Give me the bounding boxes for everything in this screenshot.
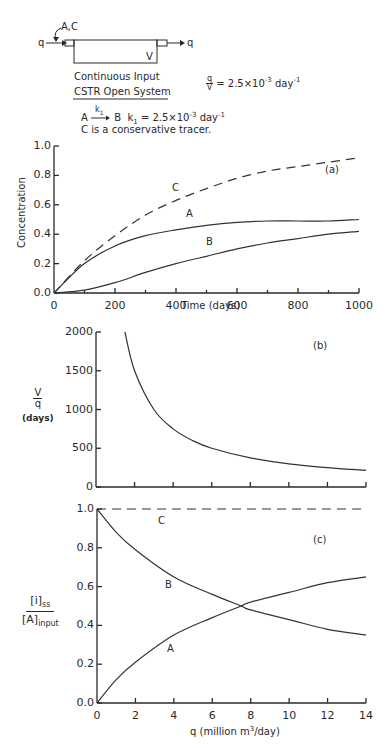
plots [0,0,390,748]
ytick-label: 0.8 [77,541,95,554]
ytick-label: 0.0 [77,696,95,709]
curve-vq-line [125,332,366,470]
panel-a-curves [54,158,359,293]
xtick-label: 800 [288,299,309,312]
panel-c-ylabel-ss: ss [42,600,50,609]
curve-b-line [97,509,366,635]
panel-c-ylabel-species: i [35,594,38,607]
ytick-label: 2000 [65,325,93,338]
xtick-label: 8 [247,709,254,722]
xtick-label: 4 [170,709,177,722]
xtick-label: 0 [94,709,101,722]
panel-a-ylabel: Concentration [16,177,27,248]
xtick-label: 200 [105,299,126,312]
panel-b-ylabel-den: q [35,399,41,409]
curve-a-line [97,577,366,703]
panel-c-ylabel-input: input [38,619,59,628]
panel-c-ylabel-a: A [26,613,34,626]
panel-c-curve-c-label: C [158,515,165,526]
panel-a-curve-b-label: B [206,236,213,247]
ytick-label: 1.0 [77,502,95,515]
ytick-label: 0.4 [34,227,52,240]
ytick-label: 0.4 [77,618,95,631]
panel-a-tag: (a) [325,164,339,175]
panel-b-ylabel-unit: (days) [22,413,54,423]
ytick-label: 1500 [65,364,93,377]
ytick-label: 500 [72,441,93,454]
panel-c-tag: (c) [313,534,326,545]
panel-b-curves [125,332,366,470]
panel-b-ylabel: V q (days) [22,388,54,423]
panel-a-axes [54,146,359,293]
panel-c-ylabel: [i]ss [A]input [22,595,59,628]
xtick-label: 6 [209,709,216,722]
panel-c-curve-b-label: B [165,579,172,590]
xtick-label: 10 [282,709,296,722]
ytick-label: 0.6 [34,198,52,211]
ytick-label: 1000 [65,403,93,416]
panel-a-curve-a-label: A [186,208,193,219]
ytick-label: 0.2 [77,657,95,670]
panel-c-xlabel: q (million m3/day) [190,725,280,737]
ytick-label: 0 [86,480,93,493]
ytick-label: 0.8 [34,168,52,181]
panel-b-axes [96,332,366,487]
xtick-label: 1000 [345,299,373,312]
panel-a-xlabel: Time (days) [181,300,240,311]
ytick-label: 0.6 [77,580,95,593]
ytick-label: 0.2 [34,257,52,270]
xtick-label: 0 [51,299,58,312]
panel-c-curve-a-label: A [167,643,174,654]
xtick-label: 2 [132,709,139,722]
xtick-label: 14 [359,709,373,722]
panel-a-curve-c-label: C [172,182,179,193]
panel-b-tag: (b) [313,340,327,351]
ytick-label: 0.0 [34,286,52,299]
xtick-label: 12 [321,709,335,722]
ytick-label: 1.0 [34,139,52,152]
